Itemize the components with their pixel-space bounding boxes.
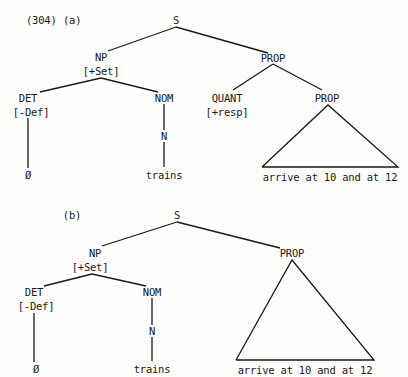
tree-b-det-feature: [-Def] xyxy=(18,301,55,312)
tree-b-np-feature: [+Set] xyxy=(72,262,109,273)
tree-b-leaf-null-det: Ø xyxy=(33,364,39,375)
tree-b-node-nom: NOM xyxy=(143,287,161,298)
tree-a-node-s: S xyxy=(173,15,179,26)
tree-b-node-np: NP xyxy=(89,248,101,259)
tree-a-node-nom: NOM xyxy=(155,93,173,104)
tree-a-node-n: N xyxy=(161,131,167,142)
tree-b-node-prop: PROP xyxy=(280,248,305,259)
tree-a-node-quant: QUANT xyxy=(212,93,243,104)
tree-a-label: (a) xyxy=(63,15,81,26)
tree-b-node-det: DET xyxy=(25,287,43,298)
tree-branches xyxy=(0,0,408,377)
tree-b-node-s: S xyxy=(174,210,180,221)
tree-a-det-feature: [-Def] xyxy=(13,107,50,118)
tree-a-quant-feature: [+resp] xyxy=(206,107,249,118)
example-number: (304) xyxy=(26,15,57,26)
diagram-canvas: (304) (a) S NP [+Set] PROP DET [-Def] NO… xyxy=(0,0,408,377)
tree-b-branches xyxy=(34,222,374,362)
tree-a-np-feature: [+Set] xyxy=(83,66,120,77)
tree-a-leaf-prop: arrive at 10 and at 12 xyxy=(263,172,398,183)
tree-a-node-det: DET xyxy=(19,93,37,104)
tree-a-node-prop-inner: PROP xyxy=(315,93,340,104)
tree-b-node-n: N xyxy=(149,326,155,337)
tree-b-label: (b) xyxy=(63,210,81,221)
tree-a-node-prop-top: PROP xyxy=(261,53,286,64)
tree-a-leaf-trains: trains xyxy=(146,170,183,181)
tree-b-leaf-prop: arrive at 10 and at 12 xyxy=(238,365,373,376)
tree-a-node-np: NP xyxy=(95,52,107,63)
tree-a-leaf-null-det: Ø xyxy=(25,170,31,181)
tree-b-leaf-trains: trains xyxy=(134,364,171,375)
